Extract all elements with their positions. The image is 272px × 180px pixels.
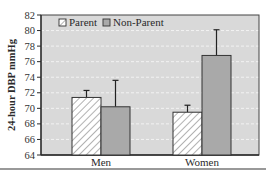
legend-swatch-parent (59, 19, 66, 26)
legend-label: Non-Parent (113, 16, 164, 28)
legend-swatch-non-parent (103, 19, 110, 26)
bar-chart: 64666870727476788082 MenWomen ParentNon-… (0, 0, 272, 180)
y-tick-label: 70 (25, 103, 36, 114)
bar-non-parent-women (202, 55, 231, 155)
x-category-label: Men (91, 156, 112, 168)
bar-parent-men (72, 97, 101, 155)
y-tick-label: 72 (25, 87, 36, 98)
y-tick-label: 66 (25, 134, 36, 145)
bar-non-parent-men (101, 107, 130, 155)
y-axis-label: 24-hour DBP mmHg (6, 38, 17, 131)
y-tick-label: 78 (25, 41, 36, 52)
y-tick-label: 80 (25, 25, 36, 36)
x-category-label: Women (185, 156, 219, 168)
y-tick-label: 68 (25, 118, 36, 129)
legend-label: Parent (69, 16, 97, 28)
y-tick-label: 74 (25, 72, 36, 83)
y-tick-label: 76 (25, 56, 36, 67)
y-tick-label: 82 (25, 10, 36, 21)
y-tick-label: 64 (25, 150, 36, 161)
x-axis-labels: MenWomen (91, 156, 220, 168)
bar-parent-women (173, 112, 202, 155)
